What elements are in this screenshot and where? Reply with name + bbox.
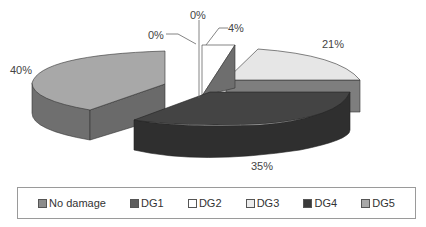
legend-item-no-damage: No damage [38, 197, 106, 209]
legend-label: No damage [49, 197, 106, 209]
legend-swatch [130, 199, 139, 208]
legend-item-dg1: DG1 [130, 197, 164, 209]
legend-label: DG1 [141, 197, 164, 209]
chart-legend: No damage DG1 DG2 DG3 DG4 DG5 [17, 187, 416, 219]
legend-swatch [361, 199, 370, 208]
label-dg4: 35% [251, 160, 273, 172]
label-dg2: 4% [228, 22, 244, 34]
label-dg1: 0% [148, 29, 164, 41]
label-no-damage: 0% [190, 9, 206, 21]
legend-swatch [246, 199, 255, 208]
label-dg3: 21% [322, 38, 344, 50]
slice-dg2 [202, 45, 235, 96]
legend-label: DG2 [199, 197, 222, 209]
legend-item-dg3: DG3 [246, 197, 280, 209]
legend-item-dg2: DG2 [188, 197, 222, 209]
legend-label: DG5 [372, 197, 395, 209]
pie-chart [0, 0, 426, 180]
legend-label: DG3 [257, 197, 280, 209]
legend-swatch [188, 199, 197, 208]
slice-dg4 [134, 92, 350, 158]
legend-label: DG4 [314, 197, 337, 209]
legend-item-dg5: DG5 [361, 197, 395, 209]
legend-item-dg4: DG4 [303, 197, 337, 209]
legend-swatch [303, 199, 312, 208]
legend-swatch [38, 199, 47, 208]
label-dg5: 40% [10, 64, 32, 76]
